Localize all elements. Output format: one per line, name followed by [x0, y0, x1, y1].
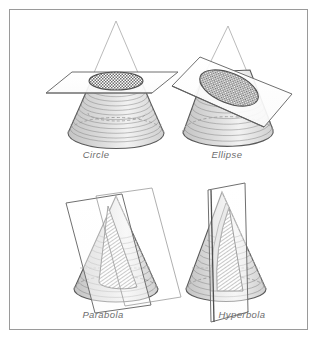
- panel-ellipse: Ellipse: [172, 26, 292, 160]
- label-parabola: Parabola: [82, 309, 123, 320]
- label-hyperbola: Hyperbola: [219, 309, 266, 320]
- label-ellipse: Ellipse: [212, 149, 243, 160]
- panel-circle: Circle: [46, 21, 178, 160]
- circle-cross-section: [89, 72, 143, 90]
- panel-hyperbola: Hyperbola: [186, 183, 266, 322]
- conic-sections-diagram: Circle: [0, 0, 320, 348]
- conic-sections-figure: Circle: [0, 0, 320, 348]
- label-circle: Circle: [83, 149, 110, 160]
- panel-parabola: Parabola: [66, 188, 181, 320]
